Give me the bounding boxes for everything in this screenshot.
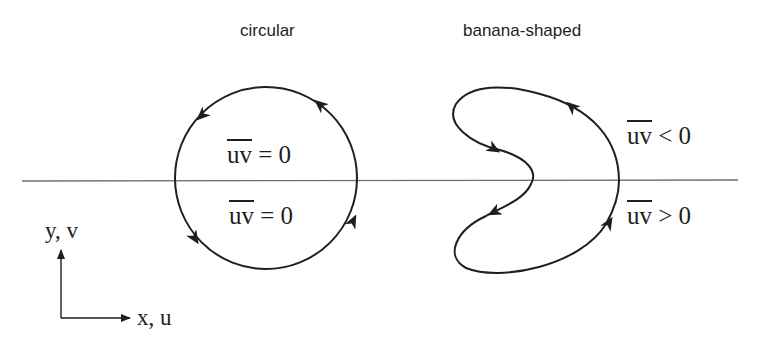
title-banana-shaped: banana-shaped [463,21,581,41]
mean-flow-baseline [22,180,738,181]
banana-lower-correlation-label: uv > 0 [627,202,691,230]
relation: < 0 [652,122,691,149]
uv-overline: uv [229,202,254,229]
uv-overline: uv [627,202,652,229]
banana-upper-correlation-label: uv < 0 [627,122,691,150]
uv-overline: uv [227,141,252,168]
relation: > 0 [652,202,691,229]
coordinate-axes [61,250,130,318]
x-axis-label: x, u [137,305,172,331]
diagram-canvas [0,0,763,340]
circle-arrow-bottom-right-icon [346,219,354,235]
relation: = 0 [252,141,291,168]
title-circular: circular [240,21,295,41]
y-axis-label: y, v [45,218,78,244]
uv-overline: uv [627,122,652,149]
circular-orbit [175,87,357,269]
circular-lower-correlation-label: uv = 0 [229,202,293,230]
circular-upper-correlation-label: uv = 0 [227,141,291,169]
relation: = 0 [254,202,293,229]
